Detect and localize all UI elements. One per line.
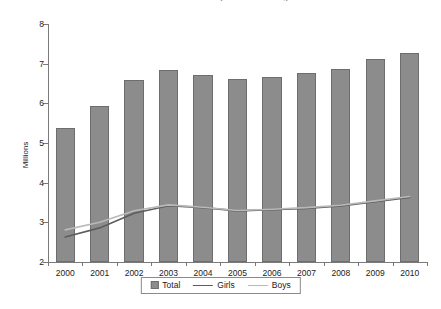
- legend-label-girls: Girls: [217, 280, 234, 290]
- line-series-boys: [65, 197, 410, 230]
- x-tick-label-2009: 2009: [366, 268, 385, 278]
- chart-legend: Total Girls Boys: [140, 277, 300, 294]
- x-tick-mark: [186, 262, 187, 266]
- legend-label-total: Total: [162, 280, 180, 290]
- x-tick-label-2008: 2008: [331, 268, 350, 278]
- y-tick-label: 8: [39, 19, 44, 29]
- x-axis-line: [48, 262, 427, 263]
- chart-title: Children Enrolled in Early Education Pro…: [0, 0, 441, 1]
- x-tick-mark: [289, 262, 290, 266]
- x-tick-mark: [393, 262, 394, 266]
- line-swatch-light-icon: [248, 285, 268, 286]
- y-axis-title: Millions: [21, 141, 30, 168]
- legend-item-boys[interactable]: Boys: [248, 280, 291, 290]
- bar-swatch-icon: [150, 281, 158, 289]
- x-tick-mark: [48, 262, 49, 266]
- y-tick-label: 3: [39, 217, 44, 227]
- x-tick-mark: [358, 262, 359, 266]
- x-tick-label-2010: 2010: [400, 268, 419, 278]
- legend-item-total[interactable]: Total: [150, 280, 180, 290]
- y-tick-label: 4: [39, 178, 44, 188]
- x-tick-mark: [324, 262, 325, 266]
- x-tick-mark: [427, 262, 428, 266]
- x-tick-mark: [151, 262, 152, 266]
- y-tick-label: 6: [39, 98, 44, 108]
- y-tick-label: 2: [39, 257, 44, 267]
- x-tick-label-2000: 2000: [56, 268, 75, 278]
- line-swatch-icon: [193, 285, 213, 286]
- x-tick-mark: [220, 262, 221, 266]
- legend-label-boys: Boys: [272, 280, 291, 290]
- y-tick-label: 5: [39, 138, 44, 148]
- plot-area: 2345678 20002001200220032004200520062007…: [48, 24, 427, 262]
- y-tick-label: 7: [39, 59, 44, 69]
- legend-item-girls[interactable]: Girls: [193, 280, 234, 290]
- x-tick-mark: [255, 262, 256, 266]
- x-tick-label-2001: 2001: [90, 268, 109, 278]
- x-tick-mark: [117, 262, 118, 266]
- chart-figure: Children Enrolled in Early Education Pro…: [0, 0, 441, 309]
- x-tick-mark: [82, 262, 83, 266]
- line-series-layer: [48, 24, 427, 262]
